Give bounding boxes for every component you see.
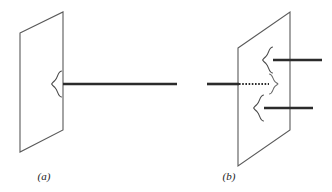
figure-background [0, 0, 332, 192]
figure-canvas: (a) (b) [0, 0, 332, 192]
panel-b-caption: (b) [223, 170, 236, 183]
figure-container: (a) (b) [0, 0, 332, 192]
panel-a-caption: (a) [38, 170, 51, 183]
